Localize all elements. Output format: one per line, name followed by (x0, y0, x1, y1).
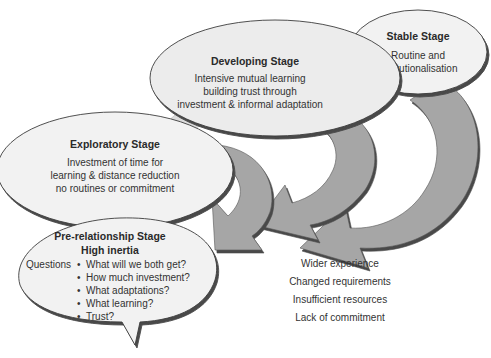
stage-title-pre-relationship: Pre-relationship Stage (54, 230, 166, 242)
exit-factor: Changed requirements (289, 276, 391, 287)
exit-factor: Wider experience (301, 258, 379, 269)
question-item: How much investment? (86, 272, 190, 283)
stage-title-stable: Stable Stage (386, 30, 449, 42)
stage-bubble-pre-relationship: Pre-relationship Stage High inertia Ques… (19, 218, 217, 345)
bullet-icon: • (77, 285, 81, 296)
stage-title-developing: Developing Stage (211, 55, 299, 67)
stage-line: investment & informal adaptation (177, 99, 323, 110)
stage-bubble-exploratory: Exploratory Stage Investment of time for… (0, 112, 233, 228)
question-item: Trust? (86, 311, 114, 322)
question-item: What learning? (86, 298, 154, 309)
exit-factors-list: Wider experience Changed requirements In… (289, 258, 391, 323)
exit-factor: Lack of commitment (295, 312, 385, 323)
questions-label: Questions (26, 259, 71, 270)
relationship-stages-diagram: Stable Stage Routine and institutionalis… (0, 0, 491, 358)
stage-line: Routine and (391, 50, 445, 61)
bullet-icon: • (77, 311, 81, 322)
stage-line: learning & distance reduction (51, 170, 180, 181)
stage-line: no routines or commitment (56, 183, 175, 194)
stage-bubble-developing: Developing Stage Intensive mutual learni… (150, 20, 400, 136)
bullet-icon: • (77, 298, 81, 309)
stage-line: Investment of time for (67, 157, 164, 168)
bullet-icon: • (77, 259, 81, 270)
stage-line: building trust through (203, 86, 296, 97)
stage-line: Intensive mutual learning (194, 73, 305, 84)
question-item: What will we both get? (86, 259, 186, 270)
bullet-icon: • (77, 272, 81, 283)
stage-title-exploratory: Exploratory Stage (70, 138, 160, 150)
exit-factor: Insufficient resources (293, 294, 387, 305)
stage-subtitle-pre-relationship: High inertia (81, 244, 139, 256)
question-item: What adaptations? (86, 285, 170, 296)
